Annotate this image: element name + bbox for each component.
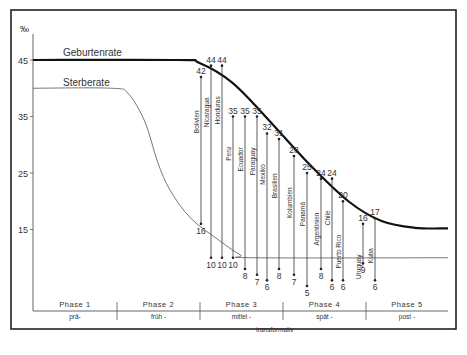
y-tick-label: 35 — [18, 112, 28, 122]
birth-rate-dot — [232, 115, 235, 118]
birth-rate-value: 31 — [274, 128, 284, 138]
birth-rate-dot — [331, 177, 334, 180]
country-label: Mexiko — [259, 164, 266, 185]
phase-label: Phase 2 — [143, 300, 175, 309]
country-bolivien: 4216Bolivien — [193, 66, 206, 236]
birth-rate-value: 35 — [252, 106, 262, 116]
birth-rate-dot — [278, 138, 281, 141]
birth-rate-value: 24 — [316, 168, 326, 178]
birth-rate-value: 35 — [240, 106, 250, 116]
death-rate-value: 8 — [319, 271, 324, 281]
phase-sublabel: früh - — [151, 313, 166, 320]
death-rate-value: 6 — [330, 282, 335, 292]
country-label: Ecuador — [237, 147, 244, 172]
country-label: Chile — [324, 210, 331, 225]
death-rate-value: 6 — [265, 282, 270, 292]
demographic-transition-chart: ‰ 45352515 4216Bolivien4410Nicaragua4410… — [0, 0, 467, 355]
death-rate-dot — [362, 262, 365, 265]
birth-rate-value: 35 — [228, 106, 238, 116]
death-rate-value: 16 — [196, 226, 206, 236]
country-kolumbien: 287Kolumbien — [286, 145, 299, 287]
birth-rate-value: 25 — [302, 162, 312, 172]
birth-rate-value: 24 — [327, 168, 337, 178]
death-rate-value: 6 — [341, 282, 346, 292]
series-label-sterberate: Sterberate — [63, 77, 110, 88]
birth-rate-dot — [200, 76, 203, 79]
death-rate-dot — [320, 268, 323, 271]
death-rate-value: 5 — [305, 288, 310, 298]
country-label: Kuba — [367, 248, 374, 264]
country-mexiko: 326Mexiko — [259, 122, 272, 292]
country-nicaragua: 4410Nicaragua — [203, 55, 216, 270]
birth-rate-dot — [320, 177, 323, 180]
y-tick-label: 45 — [18, 56, 28, 66]
phase-sublabel: mittel - — [232, 313, 252, 320]
phase-sublabel: post - — [399, 313, 415, 321]
country-paraguay: 357Paraguay — [249, 106, 262, 287]
death-rate-value: 10 — [206, 260, 216, 270]
country-label: Bolivien — [193, 110, 200, 133]
death-rate-dot — [200, 223, 203, 226]
phase-sublabel: spät - — [316, 313, 332, 321]
death-rate-value: 10 — [217, 260, 227, 270]
death-rate-dot — [342, 279, 345, 282]
birth-rate-value: 42 — [196, 66, 206, 76]
birth-rate-dot — [266, 132, 269, 135]
y-tick-label: 15 — [18, 225, 28, 235]
death-rate-value: 6 — [373, 282, 378, 292]
birth-rate-dot — [293, 155, 296, 158]
death-rate-value: 8 — [277, 271, 282, 281]
birth-rate-dot — [221, 64, 224, 67]
country-label: Kolumbien — [286, 187, 293, 218]
country-label: Honduras — [214, 96, 221, 125]
birth-rate-dot — [362, 223, 365, 226]
death-rate-value: 7 — [292, 277, 297, 287]
country-label: Puerto Rico — [335, 234, 342, 268]
death-rate-value: 8 — [243, 271, 248, 281]
death-rate-value: 7 — [255, 277, 260, 287]
phase-label: Phase 4 — [309, 300, 341, 309]
country-panamá: 255Panamá — [299, 162, 312, 298]
y-tick-label: 25 — [18, 169, 28, 179]
country-label: Paraguay — [249, 147, 257, 176]
birth-rate-dot — [342, 200, 345, 203]
death-rate-dot — [221, 256, 224, 259]
country-label: Panamá — [299, 202, 306, 227]
y-unit-label: ‰ — [20, 24, 29, 34]
death-rate-dot — [232, 256, 235, 259]
birth-rate-dot — [306, 172, 309, 175]
death-rate-dot — [210, 256, 213, 259]
phase-sublabel: prä- — [69, 313, 81, 321]
country-ecuador: 358Ecuador — [237, 106, 250, 282]
country-label: Brasilien — [271, 173, 278, 198]
birth-rate-value: 44 — [206, 55, 216, 65]
death-rate-dot — [306, 285, 309, 288]
death-rate-dot — [374, 279, 377, 282]
death-rate-dot — [278, 268, 281, 271]
phase-label: Phase 5 — [391, 300, 423, 309]
phase-caption: transformativ — [256, 326, 294, 333]
death-rate-dot — [256, 273, 259, 276]
birth-rate-dot — [210, 64, 213, 67]
birth-rate-value: 28 — [289, 145, 299, 155]
death-rate-dot — [331, 279, 334, 282]
birth-rate-value: 16 — [358, 213, 368, 223]
death-rate-dot — [266, 279, 269, 282]
country-label: Uruguay — [355, 254, 363, 279]
birth-rate-dot — [244, 115, 247, 118]
death-rate-value: 10 — [228, 260, 238, 270]
country-uruguay: 169Uruguay — [355, 213, 368, 279]
country-label: Argentinien — [313, 212, 321, 245]
birth-rate-dot — [374, 217, 377, 220]
country-label: Peru — [225, 147, 232, 161]
country-puerto-rico: 206Puerto Rico — [335, 190, 348, 292]
country-label: Nicaragua — [203, 97, 211, 127]
series-label-geburtenrate: Geburtenrate — [63, 47, 122, 58]
death-rate-dot — [244, 268, 247, 271]
birth-rate-value: 44 — [217, 55, 227, 65]
phase-label: Phase 3 — [226, 300, 258, 309]
birth-rate-value: 20 — [338, 190, 348, 200]
country-honduras: 4410Honduras — [214, 55, 227, 270]
phase-label: Phase 1 — [59, 300, 91, 309]
country-peru: 3510Peru — [225, 106, 238, 270]
